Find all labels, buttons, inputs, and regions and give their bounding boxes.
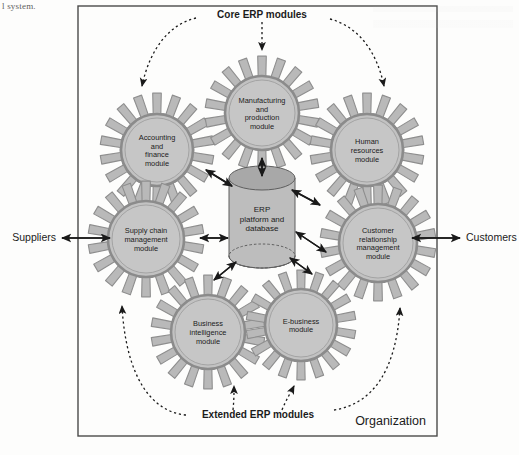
erp-platform-cylinder[interactable]: ERPplatform anddatabase [229,166,295,268]
extended-erp-modules-label: Extended ERP modules [202,409,315,420]
core-erp-modules-label: Core ERP modules [217,9,307,20]
organization-label: Organization [355,414,426,428]
page-partial-text: l system. [2,1,36,11]
customers-label: Customers [466,231,517,243]
diagram-stage: l system. AccountingandfinancemoduleManu… [0,0,519,455]
erp-diagram-svg: AccountingandfinancemoduleManufacturinga… [0,0,519,455]
suppliers-label: Suppliers [12,231,56,243]
human-resources-module-label: Humanresourcesmodule [351,137,384,163]
